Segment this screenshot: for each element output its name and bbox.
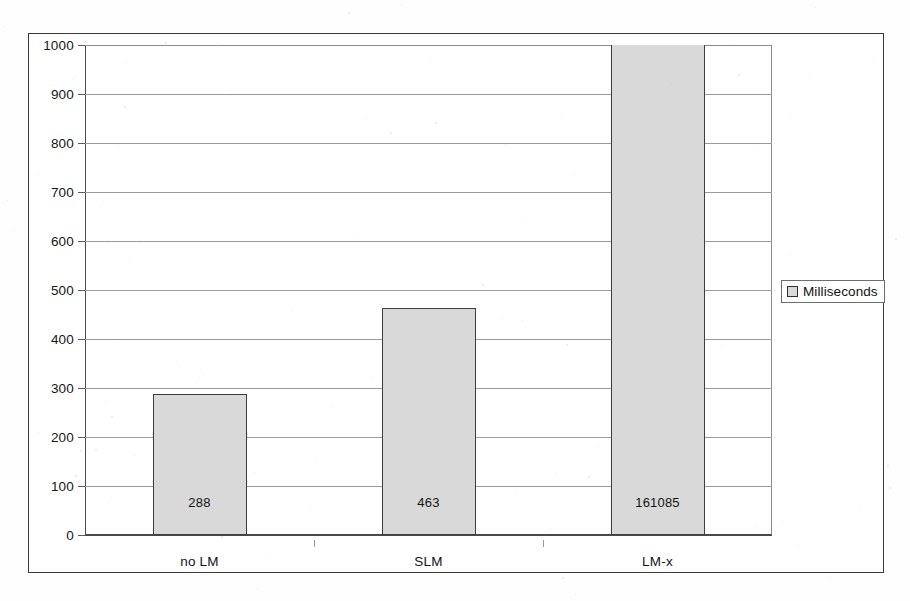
y-axis-tick-label: 1000	[43, 38, 74, 53]
y-axis-labels: 01002003004005006007008009001000	[0, 45, 74, 535]
x-axis-labels: no LMSLMLM-x	[85, 540, 772, 574]
bar-no-lm: 288	[153, 394, 247, 535]
y-axis-tick-mark	[78, 535, 85, 536]
x-axis-tick-label: no LM	[180, 554, 219, 569]
y-axis-tick-label: 800	[51, 136, 74, 151]
plot-area: 288463161085	[85, 45, 772, 535]
bar-lm-x: 161085	[611, 45, 705, 535]
y-axis-tick-label: 300	[51, 381, 74, 396]
x-axis-tick-mark	[543, 540, 544, 547]
y-axis-tick-label: 600	[51, 234, 74, 249]
y-axis-tick-mark	[78, 290, 85, 291]
y-axis-tick-mark	[78, 94, 85, 95]
y-axis-tick-label: 400	[51, 332, 74, 347]
y-axis-tick-label: 200	[51, 430, 74, 445]
x-axis-tick-label: LM-x	[642, 554, 673, 569]
y-axis-tick-label: 900	[51, 87, 74, 102]
bar-value-label: 463	[383, 495, 475, 510]
y-axis-tick-mark	[78, 339, 85, 340]
legend-label-milliseconds: Milliseconds	[803, 284, 878, 299]
x-axis-tick-label: SLM	[414, 554, 442, 569]
y-axis-tick-label: 500	[51, 283, 74, 298]
y-axis-tick-mark	[78, 486, 85, 487]
bar-value-label: 161085	[612, 495, 704, 510]
y-axis-tick-label: 0	[66, 528, 74, 543]
y-axis-tick-mark	[78, 192, 85, 193]
y-axis-tick-label: 100	[51, 479, 74, 494]
y-axis-tick-mark	[78, 45, 85, 46]
y-axis-tick-mark	[78, 388, 85, 389]
y-axis-tick-label: 700	[51, 185, 74, 200]
legend-swatch-milliseconds	[787, 286, 798, 297]
x-axis-tick-mark	[314, 540, 315, 547]
bar-value-label: 288	[154, 495, 246, 510]
bar-slm: 463	[382, 308, 476, 535]
gridline-0	[85, 535, 772, 536]
y-axis-tick-mark	[78, 143, 85, 144]
y-axis-tick-mark	[78, 241, 85, 242]
chart-legend: Milliseconds	[781, 280, 885, 303]
y-axis-tick-mark	[78, 437, 85, 438]
